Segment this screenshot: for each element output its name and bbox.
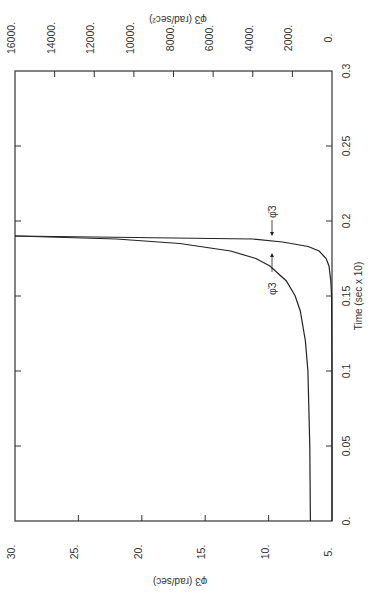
svg-text:2000.: 2000. [282,25,294,51]
svg-text:5.: 5. [322,548,334,557]
svg-text:30.: 30. [5,545,17,560]
svg-text:φ̇3: φ̇3 [266,282,278,295]
svg-text:4000.: 4000. [243,25,255,51]
time-axis-title: Time (sec x 10) [353,262,364,331]
svg-text:25.: 25. [68,545,80,560]
svg-text:16000.: 16000. [5,22,17,54]
svg-text:0.3: 0.3 [340,64,352,79]
plot-frame [15,71,332,521]
svg-text:6000.: 6000. [203,25,215,51]
svg-text:8000.: 8000. [164,25,176,51]
svg-text:0.1: 0.1 [340,364,352,379]
axis-tick-labels: 0.0.050.10.150.20.250.316000.14000.12000… [5,22,352,559]
bottom-axis-title: φ̇3 (rad/sec) [153,576,207,587]
svg-text:15.: 15. [195,545,207,560]
axis-ticks [15,71,332,521]
svg-text:0.: 0. [340,517,352,526]
svg-text:0.25: 0.25 [340,136,352,157]
annotation-vel: φ̇3 [266,253,278,295]
svg-text:14000.: 14000. [45,22,57,54]
svg-text:φ̈3: φ̈3 [266,205,278,218]
annotation-acc: φ̈3 [266,205,278,236]
svg-text:0.: 0. [322,34,334,43]
svg-text:10000.: 10000. [124,22,136,54]
velocity-curve [15,236,310,521]
svg-text:0.05: 0.05 [340,436,352,457]
svg-text:0.15: 0.15 [340,286,352,307]
svg-text:20.: 20. [132,545,144,560]
top-axis-title: φ̈3 (rad/sec²) [149,14,207,25]
svg-text:10.: 10. [259,545,271,560]
chart: 0.0.050.10.150.20.250.316000.14000.12000… [0,0,373,593]
svg-text:0.2: 0.2 [340,214,352,229]
svg-text:12000.: 12000. [84,22,96,54]
